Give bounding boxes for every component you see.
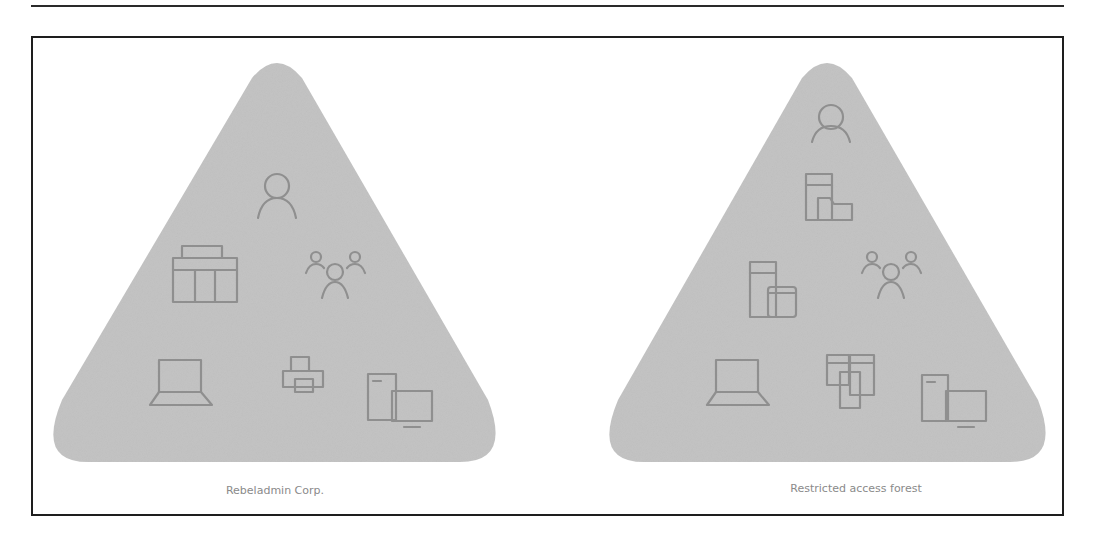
caption-restricted-access-forest: Restricted access forest bbox=[706, 482, 1006, 495]
caption-rebeladmin-corp: Rebeladmin Corp. bbox=[125, 484, 425, 497]
panel-rebeladmin-corp bbox=[53, 63, 495, 462]
forest-diagram bbox=[0, 0, 1094, 541]
forest-triangle bbox=[53, 63, 495, 462]
forest-triangle bbox=[609, 63, 1045, 462]
panel-restricted-access-forest bbox=[609, 63, 1045, 462]
